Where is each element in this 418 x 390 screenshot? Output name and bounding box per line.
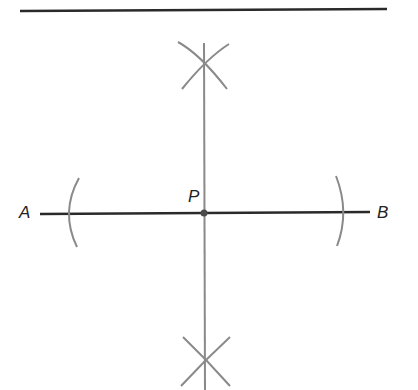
diagram-canvas: A B P (0, 0, 418, 390)
label-a: A (19, 203, 30, 223)
label-p: P (188, 187, 199, 207)
perpendicular-line (204, 43, 205, 390)
top-line (20, 9, 387, 11)
point-p (201, 210, 208, 217)
label-b: B (377, 203, 388, 223)
left-arc (69, 178, 79, 247)
construction-drawing (0, 0, 418, 390)
